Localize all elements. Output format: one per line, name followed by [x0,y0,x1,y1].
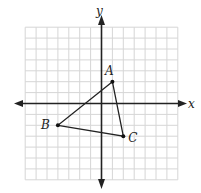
x-axis-arrow-right [178,100,187,107]
vertex-a [110,80,114,84]
x-axis-arrow-left [14,100,23,107]
vertex-label-c: C [128,131,137,145]
coordinate-plane: x y ABC [0,0,201,193]
axes: x y [14,4,195,189]
y-axis-label: y [95,4,103,18]
vertex-c [121,134,125,138]
vertex-b [56,123,60,127]
vertex-label-a: A [104,64,114,78]
x-axis-label: x [188,97,195,111]
vertex-label-b: B [40,118,50,132]
y-axis-arrow-down [98,179,105,189]
